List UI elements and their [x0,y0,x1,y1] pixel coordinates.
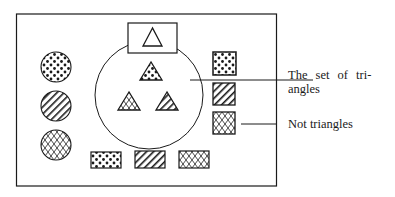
circle-dots-icon [41,52,71,82]
label-not-triangles: Not triangles [288,117,353,131]
rectangle-crosshatch-icon [179,151,209,168]
triangle-dots-icon [140,62,162,80]
label-set-of-triangles-line1: The set of tri- [288,68,378,82]
label-set-of-triangles: The set of tri- angles [288,68,378,96]
rectangle-dots-icon [91,152,121,168]
rectangle-stripes-icon [135,151,165,168]
circle-crosshatch-icon [41,130,71,160]
square-dots-icon [213,52,236,75]
square-stripes-icon [213,83,235,105]
set-of-triangles-circle [95,41,203,149]
label-set-of-triangles-line2: angles [288,82,378,96]
triangle-crosshatch-icon [118,92,140,110]
triangle-stripes-icon [156,92,178,110]
venn-diagram [0,0,395,197]
circle-stripes-icon [41,91,71,121]
square-crosshatch-icon [213,112,235,134]
